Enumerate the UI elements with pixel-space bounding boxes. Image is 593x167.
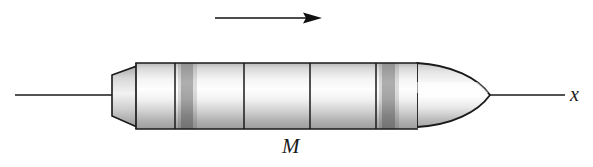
figure-root: M x — [0, 0, 593, 167]
rocket-tail-nozzle — [112, 66, 137, 127]
stage-band-aft-soft-right — [395, 63, 399, 129]
mass-label: M — [282, 136, 300, 157]
x-axis-label: x — [570, 84, 579, 104]
nose-shading-overlay — [417, 82, 492, 93]
rocket-nose-cone — [417, 63, 492, 127]
stage-band-forward-soft-left — [178, 63, 181, 129]
nose-highlight — [417, 82, 492, 93]
stage-band-aft-soft-left — [379, 63, 382, 129]
rocket-cylinder-body — [135, 63, 418, 129]
stage-band-aft — [382, 63, 395, 129]
nozzle-shape — [112, 66, 137, 127]
stage-band-forward — [181, 63, 193, 129]
velocity-direction-arrow — [215, 12, 322, 23]
nose-shape — [417, 63, 490, 127]
stage-band-forward-soft-right — [193, 63, 197, 129]
